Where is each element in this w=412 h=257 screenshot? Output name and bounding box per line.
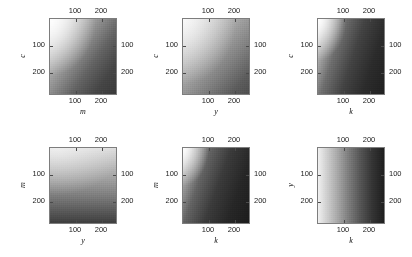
x-tick-label-bottom-100: 100 [337,226,350,234]
tick-left-200 [318,73,321,74]
tick-left-200 [183,202,186,203]
image-noise [318,148,384,223]
image-noise [50,148,116,223]
tick-top-100 [209,148,210,151]
tick-right-200 [113,73,116,74]
plot-area [317,18,385,95]
x-tick-label-bottom-100: 100 [337,97,350,105]
y-tick-label-left-200: 200 [32,68,45,76]
tick-top-200 [370,148,371,151]
tick-right-200 [113,202,116,203]
tick-right-100 [246,46,249,47]
y-tick-label-right-100: 100 [389,170,402,178]
tick-left-200 [318,202,321,203]
x-axis-label: y [81,236,85,245]
tick-top-100 [344,19,345,22]
panel-c-y: 100 200 100 200 100 200 100 200 y c [133,0,270,128]
panel-y-k: 100 200 100 200 100 200 100 200 k y [268,129,405,257]
x-tick-label-bottom-100: 100 [202,97,215,105]
y-tick-label-left-100: 100 [165,41,178,49]
tick-bottom-100 [344,91,345,94]
y-tick-label-left-100: 100 [300,41,313,49]
y-tick-label-left-200: 200 [300,197,313,205]
x-tick-label-top-200: 200 [228,7,241,15]
y-tick-label-right-200: 200 [389,197,402,205]
plot-area [182,18,250,95]
tick-top-200 [235,148,236,151]
y-tick-label-right-200: 200 [389,68,402,76]
tick-bottom-100 [76,91,77,94]
y-tick-label-left-100: 100 [165,170,178,178]
tick-right-200 [381,73,384,74]
tick-right-200 [246,202,249,203]
y-tick-label-left-100: 100 [300,170,313,178]
tick-top-100 [344,148,345,151]
y-tick-label-left-100: 100 [32,41,45,49]
tick-left-200 [50,73,53,74]
tick-right-100 [113,46,116,47]
tick-top-200 [370,19,371,22]
tick-bottom-200 [235,91,236,94]
x-tick-label-top-100: 100 [202,136,215,144]
y-tick-label-right-200: 200 [121,68,134,76]
image-noise [183,19,249,94]
y-tick-label-right-200: 200 [254,68,267,76]
x-tick-label-top-200: 200 [363,136,376,144]
y-tick-label-right-200: 200 [254,197,267,205]
y-axis-label: c [18,54,27,58]
y-tick-label-left-100: 100 [32,170,45,178]
tick-left-100 [50,46,53,47]
y-tick-label-left-200: 200 [300,68,313,76]
x-tick-label-top-100: 100 [69,136,82,144]
x-axis-label: m [80,107,86,116]
image-noise [183,148,249,223]
panel-c-m: 100 200 100 200 100 200 100 200 m c [0,0,137,128]
tick-bottom-100 [209,91,210,94]
x-tick-label-bottom-200: 200 [95,97,108,105]
tick-right-100 [381,175,384,176]
tick-top-100 [76,19,77,22]
x-tick-label-top-100: 100 [337,7,350,15]
y-tick-label-left-200: 200 [165,68,178,76]
y-axis-label: y [286,183,295,187]
panel-m-y: 100 200 100 200 100 200 100 200 y m [0,129,137,257]
tick-bottom-100 [209,220,210,223]
tick-right-100 [246,175,249,176]
y-axis-label: c [151,54,160,58]
y-axis-label: c [286,54,295,58]
tick-bottom-200 [370,220,371,223]
x-axis-label: k [214,236,218,245]
y-tick-label-left-200: 200 [32,197,45,205]
x-tick-label-top-100: 100 [337,136,350,144]
plot-area [49,147,117,224]
tick-bottom-200 [102,220,103,223]
tick-bottom-100 [344,220,345,223]
y-axis-label: m [18,182,27,188]
tick-bottom-100 [76,220,77,223]
x-tick-label-bottom-200: 200 [363,97,376,105]
tick-bottom-200 [102,91,103,94]
tick-right-200 [381,202,384,203]
image-noise [50,19,116,94]
x-tick-label-bottom-200: 200 [228,226,241,234]
figure-canvas: 100 200 100 200 100 200 100 200 m c 100 … [0,0,412,257]
y-tick-label-right-100: 100 [254,170,267,178]
panel-m-k: 100 200 100 200 100 200 100 200 k m [133,129,270,257]
tick-bottom-200 [370,91,371,94]
plot-area [182,147,250,224]
plot-area [317,147,385,224]
tick-left-100 [318,46,321,47]
y-tick-label-left-200: 200 [165,197,178,205]
x-tick-label-bottom-200: 200 [363,226,376,234]
x-tick-label-top-200: 200 [228,136,241,144]
x-tick-label-top-100: 100 [69,7,82,15]
x-tick-label-bottom-200: 200 [228,97,241,105]
tick-right-100 [113,175,116,176]
x-tick-label-bottom-100: 100 [69,97,82,105]
plot-area [49,18,117,95]
tick-top-200 [235,19,236,22]
image-noise [318,19,384,94]
panel-c-k: 100 200 100 200 100 200 100 200 k c [268,0,405,128]
tick-left-200 [50,202,53,203]
x-axis-label: k [349,107,353,116]
